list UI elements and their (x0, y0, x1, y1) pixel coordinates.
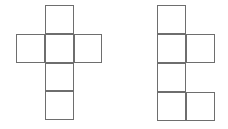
net-square (157, 5, 186, 34)
net-square (157, 63, 186, 92)
net-square (157, 34, 186, 63)
net-square (157, 92, 186, 121)
right-cube-net (0, 0, 228, 129)
net-square (186, 92, 215, 121)
diagram-canvas (0, 0, 228, 129)
net-square (186, 34, 215, 63)
